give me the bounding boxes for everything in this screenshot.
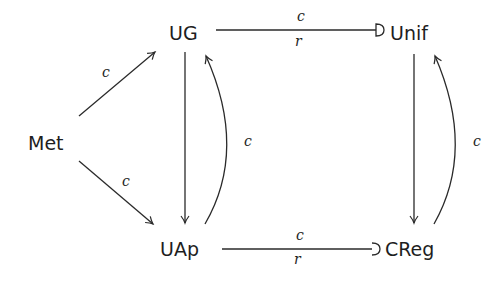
edge-label-ug-unif-top: c: [297, 8, 305, 24]
edge-label-uap-creg-bottom: r: [294, 251, 302, 267]
edge-label-uap-creg-top: c: [296, 227, 304, 243]
commutative-diagram: Met UG UAp Unif CReg c c c c r c r c: [0, 0, 502, 282]
edge-label-uap-ug: c: [244, 133, 252, 149]
edge-label-met-ug: c: [102, 64, 110, 80]
hook-icon: [376, 24, 384, 36]
edge-label-ug-unif-bottom: r: [295, 33, 303, 49]
node-uap: UAp: [160, 238, 199, 260]
edge-creg-unif: [434, 56, 455, 224]
edge-label-met-uap: c: [122, 173, 130, 189]
node-unif: Unif: [390, 22, 429, 44]
hook-icon: [372, 243, 380, 255]
node-creg: CReg: [385, 238, 434, 260]
edge-uap-ug: [205, 56, 227, 224]
edge-met-uap: [79, 161, 153, 224]
node-met: Met: [28, 132, 64, 154]
edge-label-creg-unif: c: [473, 133, 481, 149]
node-ug: UG: [169, 22, 198, 44]
edge-met-ug: [79, 52, 155, 116]
